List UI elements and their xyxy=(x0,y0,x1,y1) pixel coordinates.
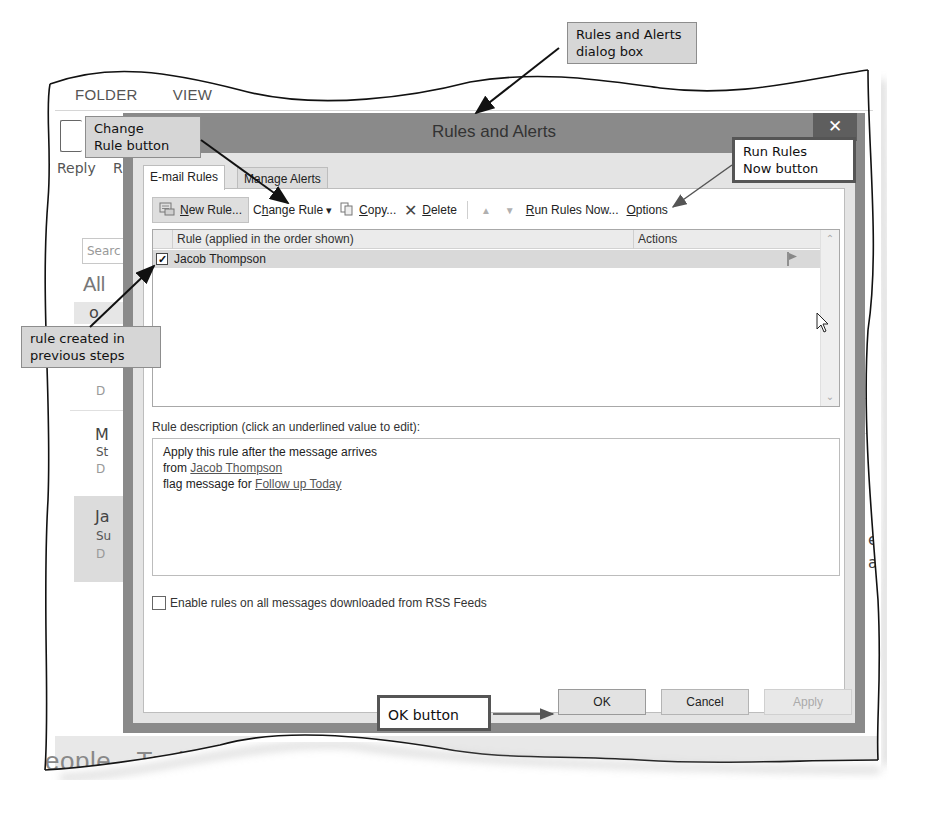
scroll-up-icon[interactable]: ⌃ xyxy=(821,230,839,248)
copy-button[interactable]: Copy... xyxy=(336,197,400,223)
callout-ok-button: OK button xyxy=(377,695,491,731)
delete-button[interactable]: ✕ Delete xyxy=(400,197,461,223)
categorize-icon xyxy=(890,150,904,159)
reply-envelope-icon[interactable] xyxy=(60,120,82,152)
message-date: D xyxy=(96,384,105,398)
rules-toolbar: New Rule... Change Rule ▾ Copy... ✕ Dele… xyxy=(152,197,672,223)
rule-name: Jacob Thompson xyxy=(174,252,266,266)
reading-pane-fragment: er St xyxy=(868,530,906,549)
move-down-icon[interactable]: ▼ xyxy=(498,205,522,216)
nav-tasks[interactable]: Tasks xyxy=(136,746,205,776)
open-envelope-icon xyxy=(890,121,906,138)
ribbon-tab-view[interactable]: VIEW xyxy=(173,86,213,103)
message-sender: Ja xyxy=(95,507,110,526)
label-part: ptions xyxy=(636,203,668,217)
rules-list-header: Rule (applied in the order shown) Action… xyxy=(153,230,821,249)
divider xyxy=(865,398,925,399)
description-line-2: from Jacob Thompson xyxy=(163,460,829,476)
label-part: opy... xyxy=(368,203,396,217)
flag-icon xyxy=(786,251,800,267)
options-button[interactable]: Options xyxy=(622,197,671,223)
navigation-bar: eople Tasks ••• xyxy=(45,746,270,777)
ok-button[interactable]: OK xyxy=(558,689,646,715)
mouse-pointer-icon xyxy=(816,312,830,334)
rule-description-label: Rule description (click an underlined va… xyxy=(152,420,420,434)
reply-button[interactable]: Reply xyxy=(57,160,96,176)
dialog-button-row: OK Cancel Apply xyxy=(133,680,855,723)
change-rule-button[interactable]: Change Rule ▾ xyxy=(249,197,336,223)
description-line-3: flag message for Follow up Today xyxy=(163,476,829,492)
description-text: flag message for xyxy=(163,477,255,491)
reading-pane-fragment: ing xyxy=(870,344,895,360)
nav-more[interactable]: ••• xyxy=(231,753,251,773)
apply-button[interactable]: Apply xyxy=(764,689,852,715)
callout-rule-created: rule created in previous steps xyxy=(21,326,161,368)
scroll-down-icon[interactable]: ⌄ xyxy=(821,388,839,406)
description-text: from xyxy=(163,461,190,475)
copy-icon xyxy=(340,202,354,219)
rules-list[interactable]: Rule (applied in the order shown) Action… xyxy=(152,229,840,407)
rss-rules-checkbox[interactable]: Enable rules on all messages downloaded … xyxy=(152,596,487,610)
svg-text:F: F xyxy=(908,169,915,183)
reading-pane-fragment: pson xyxy=(870,316,904,332)
tab-email-rules[interactable]: E-mail Rules xyxy=(143,165,225,190)
toolbar-separator xyxy=(467,201,468,219)
label-part: ange Rule xyxy=(268,203,323,217)
message-initial: o xyxy=(89,303,99,322)
rule-enabled-checkbox[interactable]: ✓ xyxy=(156,253,168,265)
accesskey: O xyxy=(626,203,635,217)
flag-value-link[interactable]: Follow up Today xyxy=(255,477,342,491)
accesskey: C xyxy=(359,203,368,217)
email-rules-panel: New Rule... Change Rule ▾ Copy... ✕ Dele… xyxy=(143,188,845,713)
move-up-icon[interactable]: ▲ xyxy=(474,205,498,216)
column-header-actions[interactable]: Actions xyxy=(633,230,681,249)
svg-text:C: C xyxy=(908,148,917,162)
delete-x-icon: ✕ xyxy=(404,201,417,220)
rules-and-alerts-dialog: Rules and Alerts ✕ E-mail Rules Manage A… xyxy=(123,113,865,733)
sender-link[interactable]: Jacob Thompson xyxy=(190,461,282,475)
label-part: C xyxy=(253,203,262,217)
accesskey: R xyxy=(526,203,535,217)
message-sender[interactable]: M xyxy=(95,425,109,444)
divider xyxy=(865,433,925,434)
rule-description-box: Apply this rule after the message arrive… xyxy=(152,438,840,576)
label-part: ew Rule... xyxy=(189,203,242,217)
checkbox-unchecked[interactable] xyxy=(152,596,166,610)
column-header-check xyxy=(153,230,173,249)
close-icon: ✕ xyxy=(828,116,842,136)
callout-rules-and-alerts-dialog: Rules and Alerts dialog box xyxy=(567,22,697,64)
dialog-body: E-mail Rules Manage Alerts New Rule... C… xyxy=(133,153,855,723)
description-line-1: Apply this rule after the message arrive… xyxy=(163,444,829,460)
reply-all-button[interactable]: R xyxy=(113,160,123,176)
label-part: elete xyxy=(431,203,457,217)
run-rules-now-button[interactable]: Run Rules Now... xyxy=(522,197,623,223)
callout-run-rules-now-button: Run Rules Now button xyxy=(732,137,856,183)
right-ribbon-icons: C F xyxy=(888,118,938,202)
accesskey: D xyxy=(422,203,431,217)
tab-manage-alerts[interactable]: Manage Alerts xyxy=(237,167,328,189)
rss-checkbox-label: Enable rules on all messages downloaded … xyxy=(170,596,487,610)
column-header-rule[interactable]: Rule (applied in the order shown) xyxy=(177,232,354,246)
flag-icon xyxy=(891,170,901,186)
rule-row[interactable]: ✓ Jacob Thompson xyxy=(153,250,821,268)
label-part: un Rules Now... xyxy=(534,203,618,217)
chevron-down-icon: ▾ xyxy=(326,204,332,217)
new-rule-button[interactable]: New Rule... xyxy=(152,197,249,223)
nav-people[interactable]: eople xyxy=(45,746,111,776)
message-subject: St xyxy=(96,445,108,459)
message-subject: Su xyxy=(96,529,111,543)
reading-pane-fragment: am, v xyxy=(868,553,913,572)
callout-change-rule-button: Change Rule button xyxy=(85,116,201,158)
message-date: D xyxy=(96,462,105,476)
filter-all[interactable]: All xyxy=(83,273,105,296)
ribbon-tab-folder[interactable]: FOLDER xyxy=(75,86,138,103)
accesskey: N xyxy=(180,203,189,217)
cancel-button[interactable]: Cancel xyxy=(661,689,749,715)
message-date: D xyxy=(96,547,105,561)
ribbon-tabs: FOLDER VIEW xyxy=(75,86,242,104)
accesskey: h xyxy=(262,203,269,217)
ribbon-divider xyxy=(55,110,925,111)
new-rule-icon xyxy=(159,202,175,219)
